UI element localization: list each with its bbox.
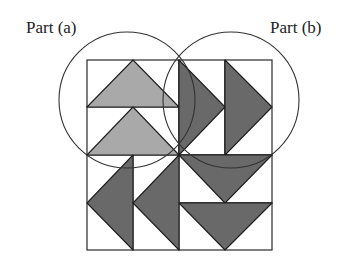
part-b-label: Part (b) [270, 18, 321, 37]
triangles [87, 60, 272, 250]
quilt-diagram: Part (a) Part (b) [0, 0, 345, 262]
part-a-label: Part (a) [26, 18, 77, 37]
